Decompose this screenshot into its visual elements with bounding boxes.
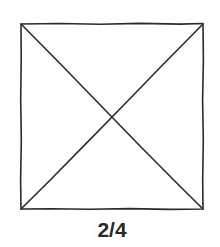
page-fraction-label: 2/4 xyxy=(0,218,220,242)
square-with-diagonals-drawing xyxy=(0,0,220,247)
